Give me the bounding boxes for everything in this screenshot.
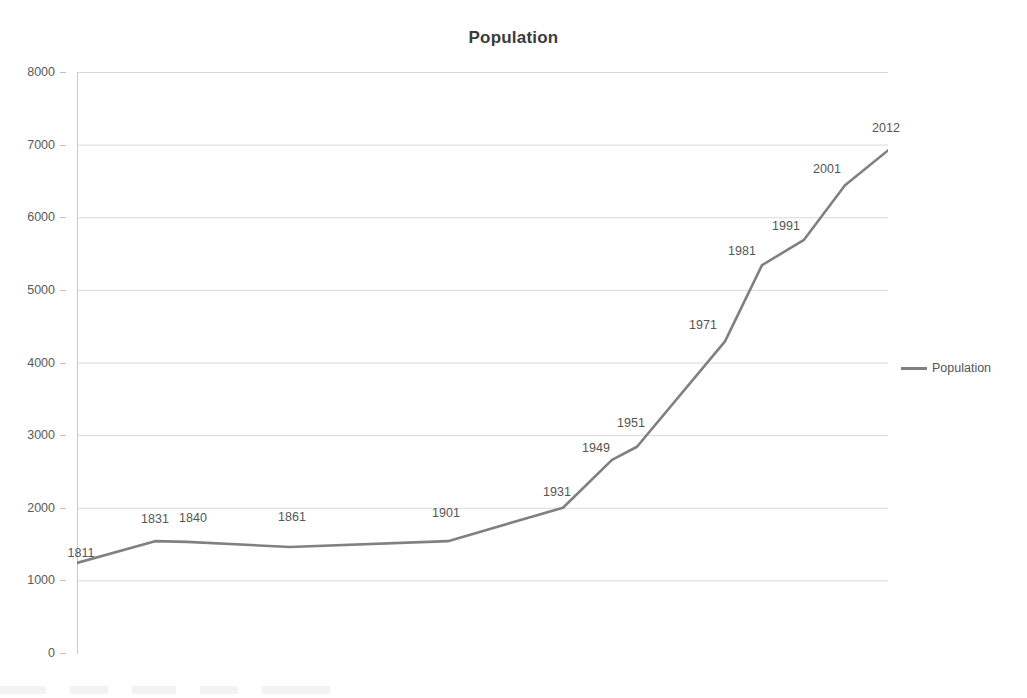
data-label-1861: 1861 (278, 510, 306, 523)
y-axis-tick-mark (60, 653, 66, 654)
legend-line-swatch (901, 367, 927, 370)
data-label-1951: 1951 (617, 416, 645, 429)
data-point-labels: 1811183118401861190119311949195119711981… (77, 72, 888, 653)
y-axis-tick-1000: 1000 (27, 573, 55, 587)
data-label-1971: 1971 (689, 319, 717, 332)
y-axis-tick-5000: 5000 (27, 283, 55, 297)
y-axis-tick-labels: 800070006000500040003000200010000 (0, 72, 66, 653)
page-footer-artifact (0, 686, 330, 694)
y-axis-tick-mark (60, 217, 66, 218)
data-label-1901: 1901 (432, 507, 460, 520)
y-axis-tick-mark (60, 72, 66, 73)
y-axis-tick-0: 0 (48, 646, 55, 660)
data-label-1981: 1981 (728, 245, 756, 258)
plot-area: 1811183118401861190119311949195119711981… (77, 72, 888, 653)
data-label-1840: 1840 (179, 511, 207, 524)
y-axis-tick-mark (60, 145, 66, 146)
population-line-chart: Population 80007000600050004000300020001… (0, 0, 1027, 698)
y-axis-tick-mark (60, 363, 66, 364)
y-axis-tick-6000: 6000 (27, 210, 55, 224)
legend-label-population: Population (932, 361, 991, 375)
data-label-1949: 1949 (582, 441, 610, 454)
y-axis-tick-3000: 3000 (27, 428, 55, 442)
data-label-1991: 1991 (772, 219, 800, 232)
data-label-1811: 1811 (68, 546, 95, 559)
chart-title: Population (0, 28, 1027, 48)
y-axis-tick-8000: 8000 (27, 65, 55, 79)
y-axis-tick-7000: 7000 (27, 138, 55, 152)
legend: Population (901, 361, 991, 375)
y-axis-tick-4000: 4000 (27, 356, 55, 370)
data-label-1931: 1931 (543, 485, 571, 498)
data-label-1831: 1831 (141, 513, 169, 526)
data-label-2012: 2012 (872, 122, 900, 135)
y-axis-tick-mark (60, 435, 66, 436)
y-axis-tick-mark (60, 580, 66, 581)
y-axis-tick-mark (60, 508, 66, 509)
data-label-2001: 2001 (813, 163, 841, 176)
y-axis-tick-mark (60, 290, 66, 291)
y-axis-tick-2000: 2000 (27, 501, 55, 515)
